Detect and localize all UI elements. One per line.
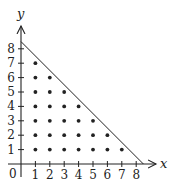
data-point — [48, 133, 52, 137]
data-point — [106, 133, 110, 137]
data-point — [34, 76, 38, 80]
data-point — [120, 148, 124, 152]
data-point — [48, 90, 52, 94]
x-axis-label: x — [160, 156, 168, 171]
x-tick-label: 3 — [60, 168, 68, 182]
data-point — [62, 90, 66, 94]
x-tick-label: 7 — [118, 168, 126, 182]
y-tick-label: 7 — [7, 56, 15, 70]
data-point — [34, 119, 38, 123]
origin-label: 0 — [9, 167, 17, 181]
lattice-points-plot: x y 0 12345678 12345678 — [0, 0, 177, 193]
data-point — [62, 133, 66, 137]
x-tick-label: 1 — [32, 168, 40, 182]
y-tick-label: 2 — [7, 128, 15, 142]
data-point — [91, 119, 95, 123]
y-tick-label: 8 — [7, 42, 15, 56]
x-tick-label: 2 — [46, 168, 54, 182]
data-point — [62, 119, 66, 123]
x-tick-label: 4 — [75, 168, 83, 182]
x-tick-label: 5 — [89, 168, 97, 182]
data-point — [48, 76, 52, 80]
axes: x y 0 — [8, 6, 168, 181]
y-tick-label: 5 — [7, 85, 15, 99]
data-point — [77, 133, 81, 137]
data-point — [48, 105, 52, 109]
boundary-line — [21, 42, 143, 164]
data-point — [106, 148, 110, 152]
data-point — [62, 148, 66, 152]
x-tick-label: 6 — [104, 168, 112, 182]
data-point — [91, 133, 95, 137]
data-point — [48, 119, 52, 123]
data-points — [34, 61, 124, 151]
data-point — [77, 119, 81, 123]
data-point — [91, 148, 95, 152]
data-point — [77, 148, 81, 152]
x-tick-label: 8 — [132, 168, 140, 182]
data-point — [48, 148, 52, 152]
y-tick-label: 1 — [7, 143, 15, 157]
y-tick-label: 6 — [7, 71, 15, 85]
data-point — [34, 148, 38, 152]
y-axis-label: y — [16, 6, 25, 21]
y-tick-label: 4 — [7, 99, 15, 113]
data-point — [34, 61, 38, 65]
data-point — [62, 105, 66, 109]
y-tick-label: 3 — [7, 114, 15, 128]
data-point — [34, 90, 38, 94]
data-point — [34, 133, 38, 137]
data-point — [77, 105, 81, 109]
data-point — [34, 105, 38, 109]
